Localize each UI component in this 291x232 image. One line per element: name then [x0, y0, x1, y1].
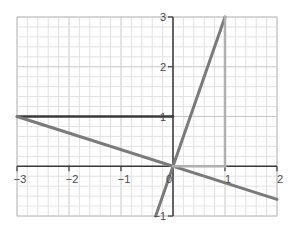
y-tick-label: −1 — [153, 210, 166, 222]
x-tick-label: 2 — [277, 173, 283, 185]
x-tick-label: 1 — [225, 173, 231, 185]
x-tick-label: 0 — [166, 173, 172, 185]
y-tick-label: 1 — [160, 111, 166, 123]
x-tick-label: −1 — [118, 173, 131, 185]
y-tick-label: 2 — [160, 61, 166, 73]
x-tick-label: −2 — [66, 173, 79, 185]
y-tick-label: 3 — [160, 11, 166, 23]
x-tick-label: −3 — [14, 173, 27, 185]
chart: −3−2−1012−1123 — [0, 0, 291, 232]
series-line — [17, 117, 277, 200]
